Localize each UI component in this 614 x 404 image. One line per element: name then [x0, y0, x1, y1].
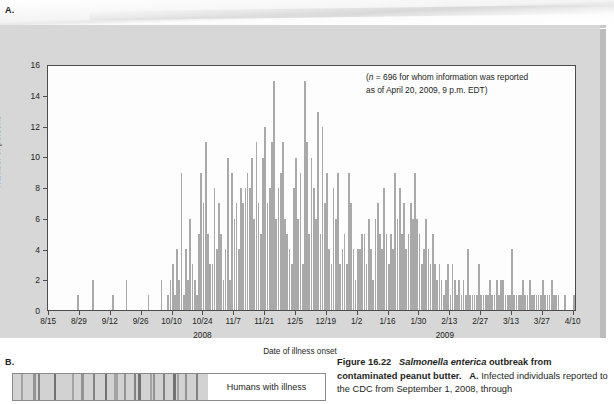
bar	[148, 295, 150, 310]
gel-band	[196, 374, 198, 400]
y-axis-tick-label: 4	[22, 245, 40, 255]
gel-band	[105, 374, 107, 400]
y-axis-tick-label: 6	[22, 214, 40, 224]
gel-band	[173, 374, 176, 400]
gel-band	[81, 374, 84, 400]
x-axis-tick-label: 9/12	[102, 317, 118, 326]
gel-band	[185, 374, 187, 400]
x-axis-tick-mark	[573, 311, 574, 315]
x-axis-tick-mark	[542, 311, 543, 315]
caption-figure-number: Figure 16.22	[337, 357, 391, 367]
bar	[161, 280, 163, 311]
gel-band	[54, 374, 56, 400]
gel-band	[153, 374, 155, 400]
gel-band	[21, 374, 23, 400]
gel-band	[33, 374, 36, 400]
x-axis-tick-label: 1/2	[351, 317, 362, 326]
caption-organism: Salmonella enterica	[399, 357, 486, 367]
y-axis-tick-label: 12	[22, 122, 40, 132]
gel-band	[124, 374, 126, 400]
y-axis-tick-label: 0	[22, 306, 40, 316]
x-axis-tick-mark	[326, 311, 327, 315]
x-axis-tick-mark	[295, 311, 296, 315]
chart-annotation-line-2: as of April 20, 2009, 9 p.m. EDT)	[366, 84, 528, 97]
bar-series	[48, 66, 575, 310]
x-axis-tick-mark	[48, 311, 49, 315]
gel-band	[163, 374, 165, 400]
chart-annotation: (n = 696 for whom information was report…	[366, 71, 528, 96]
gel-band	[134, 374, 136, 400]
y-axis-tick-label: 10	[22, 152, 40, 162]
x-axis-tick-label: 11/21	[254, 317, 274, 326]
page-scan-artifact	[0, 0, 614, 26]
x-axis-tick-mark	[480, 311, 481, 315]
bar	[112, 295, 114, 310]
chart-annotation-line-1: (n = 696 for whom information was report…	[366, 71, 528, 84]
plot-area	[47, 65, 576, 311]
gel-band	[38, 374, 40, 400]
y-axis-tick-label: 8	[22, 183, 40, 193]
x-axis-tick-mark	[449, 311, 450, 315]
chart-figure-plate: Lesson on Putt anus Carrier? Number of p…	[0, 25, 600, 338]
gel-label: Humans with illness	[208, 374, 325, 400]
x-axis-title: Date of illness onset	[263, 347, 337, 356]
x-axis-tick-label: 3/27	[534, 317, 550, 326]
x-axis-tick-label: 1/16	[380, 317, 396, 326]
x-axis-tick-mark	[233, 311, 234, 315]
y-axis-tick-label: 16	[22, 60, 40, 70]
x-axis-tick-label: 10/24	[192, 317, 213, 326]
x-axis-tick-mark	[202, 311, 203, 315]
x-axis-tick-label: 8/15	[40, 317, 56, 326]
x-axis-tick-label: 10/10	[161, 317, 182, 326]
bar	[564, 295, 566, 310]
bar	[92, 280, 94, 311]
x-axis-tick-mark	[511, 311, 512, 315]
gel-band	[138, 374, 141, 400]
x-axis-tick-label: 11/7	[226, 317, 241, 326]
x-axis-tick-mark	[79, 311, 80, 315]
x-axis-tick-mark	[418, 311, 419, 315]
x-axis-year-label: 2008	[193, 331, 211, 340]
x-axis-tick-label: 12/19	[316, 317, 337, 326]
x-axis-tick-mark	[388, 311, 389, 315]
x-axis-tick-mark	[141, 311, 142, 315]
x-axis-tick-label: 1/30	[410, 317, 426, 326]
x-axis-tick-mark	[264, 311, 265, 315]
x-axis-tick-mark	[110, 311, 111, 315]
panel-b-letter: B.	[5, 357, 14, 367]
page-scan-streak	[90, 5, 614, 20]
figure-caption: Figure 16.22 Salmonella enterica outbrea…	[337, 356, 609, 397]
y-axis-title: Number of persons	[0, 116, 2, 188]
x-axis-tick-label: 2/13	[441, 317, 457, 326]
x-axis-tick-label: 2/27	[472, 317, 488, 326]
bar	[126, 280, 128, 311]
gel-band	[177, 374, 179, 400]
gel-band	[72, 374, 74, 400]
gel-band	[93, 374, 95, 400]
x-axis-tick-mark	[172, 311, 173, 315]
bar	[181, 173, 183, 310]
y-axis-tick-label: 2	[22, 275, 40, 285]
bar	[77, 295, 79, 310]
x-axis-year-label: 2009	[436, 331, 454, 340]
x-axis-tick-label: 9/26	[133, 317, 149, 326]
gel-electrophoresis-row: Humans with illness	[12, 373, 326, 401]
x-axis-tick-label: 8/29	[71, 317, 87, 326]
gel-lane-image	[13, 374, 208, 400]
x-axis-tick-label: 4/10	[565, 317, 581, 326]
panel-a-letter: A.	[5, 5, 14, 15]
bar	[558, 295, 560, 310]
bar	[573, 295, 575, 310]
caption-part-label: A.	[469, 371, 478, 381]
x-axis-tick-mark	[357, 311, 358, 315]
x-axis-tick-label: 12/5	[287, 317, 303, 326]
y-axis-tick-label: 14	[22, 91, 40, 101]
gel-band	[114, 374, 118, 400]
annotation-line1-rest: = 696 for whom information was reported	[373, 72, 528, 82]
gel-band	[150, 374, 152, 400]
x-axis-tick-label: 3/13	[503, 317, 519, 326]
